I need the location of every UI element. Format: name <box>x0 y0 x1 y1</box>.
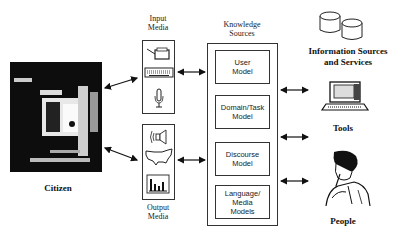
connector-arrows <box>0 0 396 235</box>
